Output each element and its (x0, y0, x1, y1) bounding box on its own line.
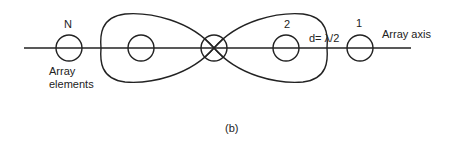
element-2-label: 2 (284, 18, 290, 30)
element-N-label: N (64, 18, 72, 30)
array-elements-label-line2: elements (49, 78, 94, 90)
array-elements-label-line1: Array (49, 65, 76, 77)
panel-label: (b) (225, 122, 238, 134)
element-1-label: 1 (356, 17, 362, 29)
array-axis-label: Array axis (382, 28, 431, 40)
spacing-label: d= λ/2 (309, 32, 339, 44)
array-pattern-diagram: N 2 1 d= λ/2 Array axis Array elements (… (0, 0, 451, 148)
